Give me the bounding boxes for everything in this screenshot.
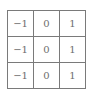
matrix-cell: 1 xyxy=(60,37,86,63)
matrix-cell: 0 xyxy=(34,11,60,37)
matrix-cell: 0 xyxy=(34,63,60,89)
matrix-cell: 1 xyxy=(60,11,86,37)
matrix-row: −1 0 1 xyxy=(8,11,86,37)
matrix-cell: 0 xyxy=(34,37,60,63)
matrix-cell: −1 xyxy=(8,11,34,37)
matrix-row: −1 0 1 xyxy=(8,37,86,63)
matrix-cell: 1 xyxy=(60,63,86,89)
matrix-cell: −1 xyxy=(8,63,34,89)
kernel-matrix: −1 0 1 −1 0 1 −1 0 1 xyxy=(7,10,86,89)
matrix-cell: −1 xyxy=(8,37,34,63)
matrix-row: −1 0 1 xyxy=(8,63,86,89)
